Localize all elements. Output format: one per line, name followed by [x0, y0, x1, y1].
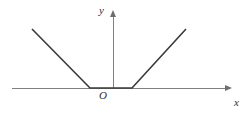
- x-axis-label: x: [234, 97, 239, 108]
- x-axis-arrow-icon: [225, 85, 232, 91]
- y-axis-label: y: [99, 5, 104, 16]
- y-axis-arrow-icon: [110, 10, 116, 17]
- origin-label: O: [99, 90, 107, 101]
- graph-figure: y x O: [0, 0, 250, 116]
- piecewise-linear-curve: [32, 29, 186, 88]
- graph-canvas: [0, 0, 250, 116]
